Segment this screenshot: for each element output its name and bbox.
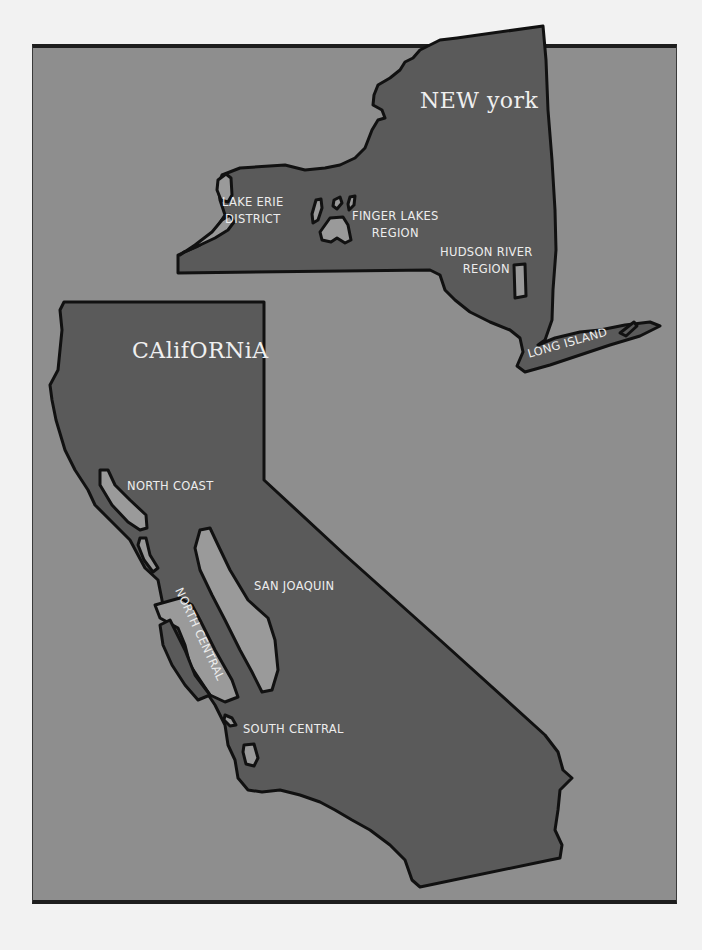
finger-lakes-region-label: FINGER LAKES REGION bbox=[352, 208, 439, 242]
california-title: CAlifORNiA bbox=[132, 338, 269, 363]
lake-erie-label-line2: DISTRICT bbox=[222, 211, 284, 228]
new-york-title: NEW york bbox=[420, 88, 538, 113]
finger-lakes-label-line1: FINGER LAKES bbox=[352, 208, 439, 225]
lake-erie-label-line1: LAKE ERIE bbox=[222, 194, 284, 211]
hudson-river-label-line1: HUDSON RIVER bbox=[440, 244, 533, 261]
hudson-river-region-label: HUDSON RIVER REGION bbox=[440, 244, 533, 278]
finger-lakes-label-line2: REGION bbox=[352, 225, 439, 242]
south-central-label: SOUTH CENTRAL bbox=[243, 721, 344, 738]
san-joaquin-label: SAN JOAQUIN bbox=[254, 578, 334, 595]
wine-regions-map bbox=[0, 0, 702, 950]
hudson-river-label-line2: REGION bbox=[440, 261, 533, 278]
lake-erie-district-label: LAKE ERIE DISTRICT bbox=[222, 194, 284, 228]
south-central-spot-2-shape bbox=[243, 744, 258, 766]
north-coast-label: NORTH COAST bbox=[127, 478, 214, 495]
